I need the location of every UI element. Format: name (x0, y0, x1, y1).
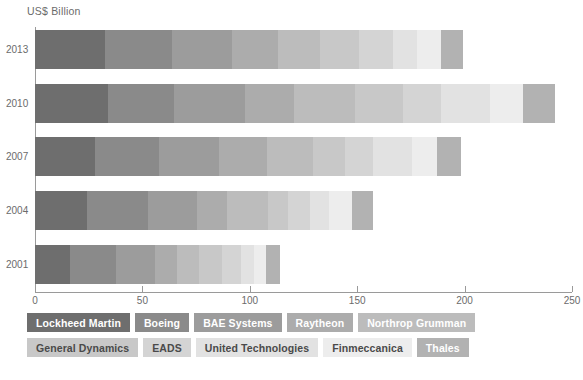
x-tick-label-150: 150 (349, 295, 366, 306)
x-tick-label-250: 250 (564, 295, 581, 306)
x-tick-100 (250, 286, 251, 292)
stacked-bar-chart: US$ Billion 050100150200250 201320102007… (0, 0, 583, 380)
bar-segment (278, 30, 320, 69)
y-axis-label-2013: 2013 (6, 44, 28, 55)
bar-segment (95, 137, 158, 176)
bar-segment (35, 245, 70, 284)
bar-segment (329, 191, 352, 230)
bar-segment (352, 191, 373, 230)
bar-segment (393, 30, 418, 69)
y-axis-label-2010: 2010 (6, 98, 28, 109)
bar-segment (523, 84, 555, 123)
y-axis-label-2004: 2004 (6, 205, 28, 216)
bar-segment (417, 30, 441, 69)
bar-segment (267, 137, 313, 176)
bar-segment (245, 84, 293, 123)
bar-segment (373, 137, 412, 176)
bar-row-2007 (35, 137, 461, 176)
x-tick-label-200: 200 (456, 295, 473, 306)
bar-segment (35, 84, 108, 123)
bar-segment (35, 191, 87, 230)
bar-segment (441, 30, 464, 69)
bar-segment (174, 84, 246, 123)
legend-row-1: Lockheed MartinBoeingBAE SystemsRaytheon… (27, 313, 567, 332)
y-axis-label-2007: 2007 (6, 151, 28, 162)
bar-row-2001 (35, 245, 280, 284)
bar-segment (490, 84, 522, 123)
bar-segment (199, 245, 222, 284)
x-tick-150 (357, 286, 358, 292)
x-tick-0 (35, 286, 36, 292)
legend-item-raytheon[interactable]: Raytheon (287, 313, 354, 332)
bar-segment (412, 137, 437, 176)
bar-segment (197, 191, 227, 230)
bar-row-2013 (35, 30, 463, 69)
bar-segment (108, 84, 174, 123)
legend-item-boeing[interactable]: Boeing (135, 313, 189, 332)
bar-segment (310, 191, 329, 230)
bar-segment (403, 84, 441, 123)
bar-segment (227, 191, 268, 230)
x-tick-250 (572, 286, 573, 292)
bar-segment (441, 84, 490, 123)
legend-item-bae-systems[interactable]: BAE Systems (194, 313, 281, 332)
bar-segment (241, 245, 254, 284)
bar-row-2010 (35, 84, 555, 123)
bar-segment (105, 30, 173, 69)
legend: Lockheed MartinBoeingBAE SystemsRaytheon… (27, 313, 567, 363)
bar-segment (222, 245, 241, 284)
bar-segment (219, 137, 267, 176)
bar-segment (313, 137, 345, 176)
bar-segment (288, 191, 309, 230)
bar-segment (148, 191, 197, 230)
bar-segment (268, 191, 288, 230)
legend-item-thales[interactable]: Thales (417, 338, 469, 357)
bar-segment (294, 84, 355, 123)
bar-segment (87, 191, 148, 230)
bar-segment (35, 30, 105, 69)
y-axis-label-2001: 2001 (6, 259, 28, 270)
bar-segment (177, 245, 200, 284)
x-tick-50 (142, 286, 143, 292)
legend-item-general-dynamics[interactable]: General Dynamics (27, 338, 138, 357)
bar-segment (254, 245, 266, 284)
bar-segment (232, 30, 278, 69)
x-tick-label-100: 100 (241, 295, 258, 306)
bar-segment (155, 245, 176, 284)
x-axis-line (35, 292, 572, 293)
legend-item-eads[interactable]: EADS (143, 338, 191, 357)
bar-segment (437, 137, 462, 176)
bar-segment (355, 84, 403, 123)
legend-item-finmeccanica[interactable]: Finmeccanica (323, 338, 412, 357)
bar-segment (35, 137, 95, 176)
bar-segment (159, 137, 219, 176)
legend-item-northrop-grumman[interactable]: Northrop Grumman (358, 313, 475, 332)
bar-segment (116, 245, 156, 284)
bar-segment (320, 30, 360, 69)
axis-unit-title: US$ Billion (27, 5, 81, 17)
x-tick-label-50: 50 (137, 295, 148, 306)
legend-item-lockheed-martin[interactable]: Lockheed Martin (27, 313, 130, 332)
bar-segment (172, 30, 231, 69)
x-tick-label-0: 0 (32, 295, 38, 306)
bar-segment (345, 137, 373, 176)
legend-item-united-technologies[interactable]: United Technologies (196, 338, 318, 357)
bar-segment (70, 245, 115, 284)
x-tick-200 (465, 286, 466, 292)
bar-segment (359, 30, 392, 69)
legend-row-2: General DynamicsEADSUnited TechnologiesF… (27, 338, 567, 357)
bar-segment (266, 245, 280, 284)
bar-row-2004 (35, 191, 373, 230)
